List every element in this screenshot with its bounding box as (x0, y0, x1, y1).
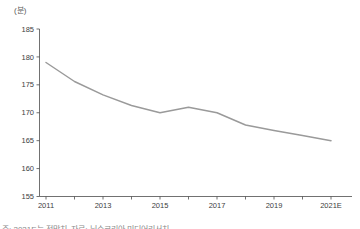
x-tick-label: 2017 (209, 201, 226, 210)
y-tick-label: 175 (21, 80, 34, 89)
y-tick-label: 155 (21, 192, 34, 201)
x-tick-label: 2013 (95, 201, 112, 210)
tv-viewing-minutes-line-chart: (분) 155160165170175180185201120132015201… (0, 0, 360, 229)
y-tick-label: 185 (21, 25, 34, 34)
x-tick-label: 2011 (38, 201, 54, 210)
x-tick-label: 2019 (266, 201, 283, 210)
data-series-line (46, 63, 331, 141)
y-tick-label: 160 (21, 164, 34, 173)
y-tick-label: 180 (21, 53, 34, 62)
source-footnote: 주: 2021E는 전망치, 자료: 닐슨코리아 미디어리서치 (2, 225, 169, 229)
y-tick-label: 170 (21, 108, 34, 117)
x-tick-label: 2015 (152, 201, 169, 210)
chart-canvas: 1551601651701751801852011201320152017201… (0, 0, 360, 229)
y-tick-label: 165 (21, 136, 34, 145)
x-tick-label: 2021E (320, 201, 342, 210)
